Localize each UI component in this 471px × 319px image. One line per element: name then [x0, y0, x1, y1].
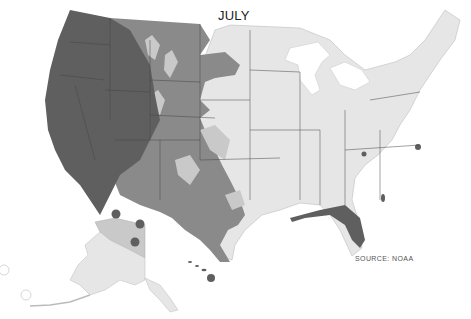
source-label: SOURCE: NOAA: [355, 255, 413, 262]
alaska-marker-icon: [136, 220, 145, 229]
dark-spot-tn: [362, 152, 367, 157]
aleutian-islands: [30, 295, 90, 306]
dark-spot-ga: [381, 194, 385, 202]
alaska-panhandle: [145, 278, 178, 312]
hawaii: [188, 261, 215, 282]
island-outline-icon: [0, 265, 9, 275]
us-map: [0, 0, 471, 319]
alaska-marker-icon: [131, 238, 140, 247]
alaska-marker-icon: [112, 210, 121, 219]
island-outline-icon: [21, 290, 31, 300]
map-title: JULY: [218, 8, 250, 23]
